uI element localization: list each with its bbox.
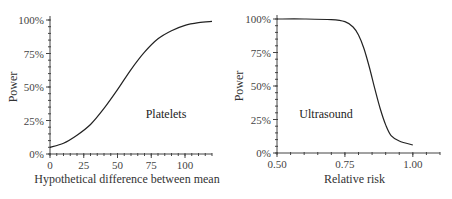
chart-ultrasound: 0%25%50%75%100%0.500.751.00Relative risk…	[226, 0, 452, 199]
chart-platelets: 0%25%50%75%100%0255075100Hypothetical di…	[0, 0, 226, 199]
x-axis-title: Relative risk	[324, 172, 385, 186]
x-tick-label: 1.00	[403, 158, 423, 170]
y-axis-title: Power	[6, 72, 20, 103]
x-axis-title: Hypothetical difference between mean	[34, 172, 219, 186]
series-annotation: Platelets	[146, 107, 187, 121]
x-tick-label: 0.75	[335, 158, 355, 170]
chart-platelets-svg: 0%25%50%75%100%0255075100Hypothetical di…	[0, 0, 226, 199]
y-tick-label: 25%	[251, 114, 271, 126]
y-tick-label: 75%	[251, 47, 271, 59]
x-tick-label: 75	[146, 159, 158, 171]
y-tick-label: 25%	[24, 115, 44, 127]
y-tick-label: 100%	[18, 14, 44, 26]
series-annotation: Ultrasound	[299, 107, 352, 121]
x-tick-label: 100	[177, 159, 194, 171]
x-tick-label: 0.50	[267, 158, 287, 170]
y-axis-title: Power	[232, 71, 246, 102]
chart-ultrasound-svg: 0%25%50%75%100%0.500.751.00Relative risk…	[226, 0, 452, 199]
y-tick-label: 100%	[245, 13, 271, 25]
y-tick-label: 50%	[24, 81, 44, 93]
y-tick-label: 50%	[251, 80, 271, 92]
power-curve	[277, 19, 413, 145]
y-tick-label: 75%	[24, 48, 44, 60]
x-tick-label: 25	[78, 159, 90, 171]
x-tick-label: 50	[112, 159, 124, 171]
x-tick-label: 0	[47, 159, 53, 171]
power-curve	[50, 21, 212, 147]
y-tick-label: 0%	[29, 148, 44, 160]
